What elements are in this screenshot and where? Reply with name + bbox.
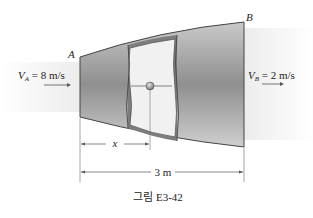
x-dimension-label: x <box>112 137 118 149</box>
fluid-particle-ball <box>146 82 154 90</box>
figure-caption: 그림 E3-42 <box>133 191 183 203</box>
point-a-label: A <box>67 48 75 60</box>
length-dimension-label: 3 m <box>155 166 172 178</box>
nozzle-diagram: A B VA = 8 m/s VB = 2 m/s x 3 m 그림 E3-42 <box>0 0 313 218</box>
point-b-label: B <box>246 11 253 23</box>
